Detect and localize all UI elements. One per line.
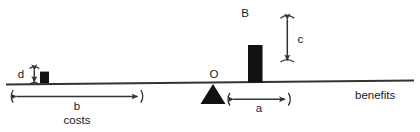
dim-b-left-bracket: [11, 90, 13, 103]
fulcrum-triangle: [201, 84, 226, 104]
dim-a-label: a: [256, 102, 263, 114]
dim-c-top-arc: [281, 15, 295, 18]
dim-a-left-bracket: [228, 93, 230, 106]
axis-label-benefits: benefits: [355, 89, 396, 101]
fulcrum-label: O: [210, 68, 219, 80]
axis-label-costs: costs: [64, 114, 91, 126]
benefit-bar: [248, 45, 263, 83]
dim-d-label: d: [18, 68, 24, 80]
dim-a-right-bracket: [288, 93, 290, 106]
dim-b-label: b: [74, 100, 80, 112]
lever-beam: [6, 81, 414, 85]
bar-b-label: B: [241, 7, 249, 19]
figure-canvas: d c b a B O costs benefits: [0, 0, 420, 132]
dimension-d: [30, 67, 40, 85]
dim-c-bottom-arc: [281, 60, 295, 62]
dim-b-right-bracket: [141, 90, 143, 103]
lever-diagram-svg: d c b a B O costs benefits: [0, 0, 420, 132]
dim-d-top-arc: [30, 67, 40, 69]
cost-bar: [40, 72, 49, 84]
dimension-c: [281, 15, 295, 62]
dim-c-label: c: [298, 33, 304, 45]
